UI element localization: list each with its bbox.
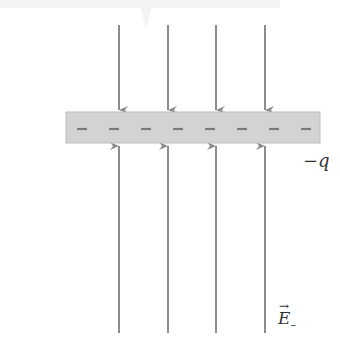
field-diagram (0, 0, 340, 340)
field-label: →E– (278, 308, 296, 331)
negative-plate (66, 112, 320, 143)
vector-arrow-icon: → (279, 299, 289, 313)
charge-label: −q (303, 150, 330, 171)
field-lines (119, 25, 265, 333)
